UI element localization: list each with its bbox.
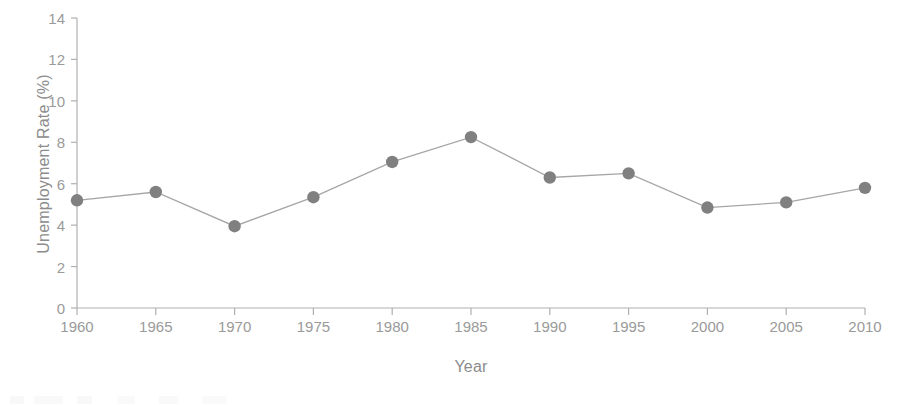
data-point-marker (71, 194, 83, 206)
plot-area (0, 0, 898, 405)
data-markers (71, 131, 871, 232)
data-point-marker (780, 196, 792, 208)
data-point-marker (150, 186, 162, 198)
data-point-marker (701, 201, 713, 213)
data-point-marker (465, 131, 477, 143)
page-scan-artifact (10, 396, 250, 404)
data-point-marker (622, 167, 634, 179)
data-point-marker (307, 191, 319, 203)
data-point-marker (386, 156, 398, 168)
unemployment-rate-line-chart: Unemployment Rate (%) Year 02468101214 1… (0, 0, 898, 405)
data-line (77, 137, 865, 226)
data-point-marker (544, 171, 556, 183)
data-point-marker (228, 220, 240, 232)
data-point-marker (859, 182, 871, 194)
axis-ticks (71, 18, 865, 315)
axis-lines (77, 18, 865, 308)
